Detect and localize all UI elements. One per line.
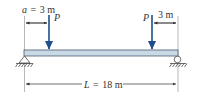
load-left-label: P [53, 12, 60, 23]
load-right-label: P [142, 12, 149, 23]
dimension-right-offset: 3 m [154, 9, 176, 23]
beam [24, 50, 178, 56]
dimension-a-label: a = 3 m [22, 4, 55, 15]
dimension-a: a = 3 m [22, 4, 55, 23]
dimension-span-label: L = 18 m [83, 79, 123, 90]
dimension-right-offset-label: 3 m [158, 9, 174, 20]
load-right: P [142, 12, 152, 49]
dimension-span: L = 18 m [26, 79, 176, 90]
load-left: P [49, 12, 60, 49]
beam-diagram: a = 3 m 3 m P P [0, 0, 197, 99]
